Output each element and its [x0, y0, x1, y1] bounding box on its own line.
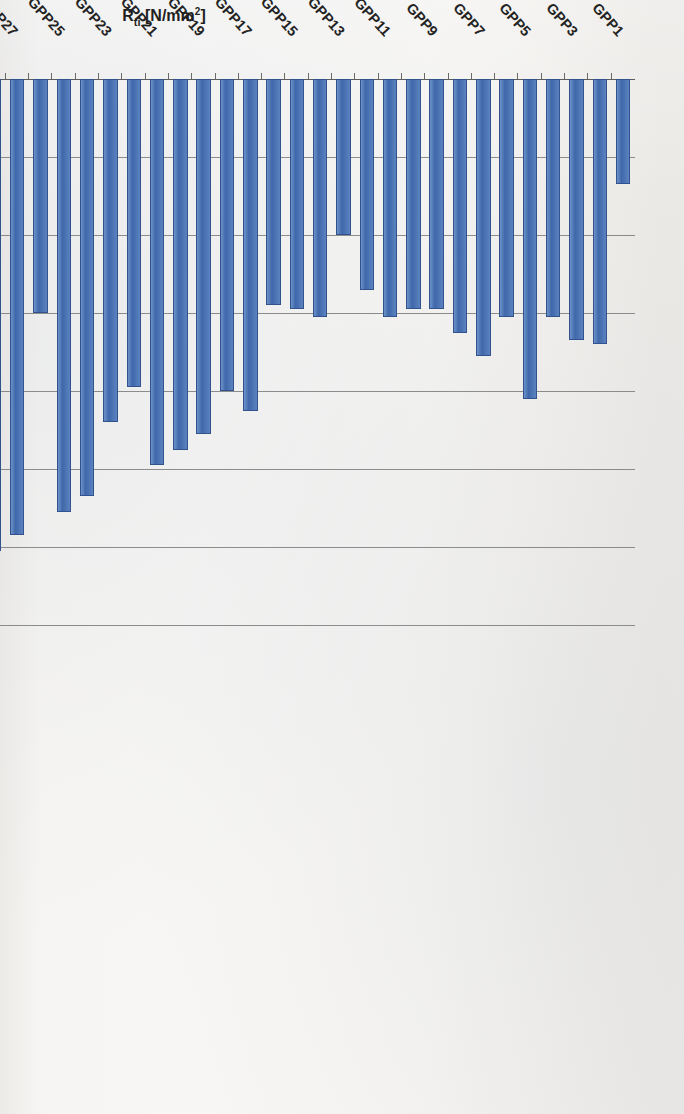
value-axis-title-unit: [N/mm	[141, 7, 195, 24]
category-tick-label: GPP5	[496, 0, 534, 39]
category-tick	[75, 73, 76, 79]
category-tick	[308, 73, 309, 79]
category-tick	[145, 73, 146, 79]
category-tick	[331, 73, 332, 79]
category-tick	[611, 73, 612, 79]
category-tick	[121, 73, 122, 79]
category-tick	[238, 73, 239, 79]
bar	[80, 79, 94, 496]
bar	[336, 79, 350, 235]
bar	[453, 79, 467, 333]
category-tick-label: GPP7	[450, 0, 488, 39]
bar	[430, 79, 444, 309]
category-tick	[168, 73, 169, 79]
bar	[33, 79, 47, 313]
category-tick	[471, 73, 472, 79]
category-tick	[378, 73, 379, 79]
category-tick-label: GPP23	[71, 0, 114, 39]
rotated-figure-wrapper: 01234567 GPP1GPP3GPP5GPP7GPP9GPP11GPP13G…	[0, 0, 684, 1114]
bar	[383, 79, 397, 317]
category-tick	[215, 73, 216, 79]
bar	[569, 79, 583, 340]
category-tick-label: GPP25	[25, 0, 68, 39]
category-tick-label: GPP15	[258, 0, 301, 39]
bar	[196, 79, 210, 434]
value-axis-title-close: ]	[200, 7, 205, 24]
category-tick	[98, 73, 99, 79]
bar	[243, 79, 257, 411]
category-tick	[587, 73, 588, 79]
bar	[266, 79, 280, 305]
bar	[313, 79, 327, 317]
bar	[127, 79, 141, 387]
category-tick	[191, 73, 192, 79]
bar	[150, 79, 164, 465]
category-tick	[5, 73, 6, 79]
category-tick-label: GPP27	[0, 0, 21, 39]
bar	[523, 79, 537, 399]
bar	[57, 79, 71, 512]
category-tick	[517, 73, 518, 79]
bar	[220, 79, 234, 391]
category-tick	[261, 73, 262, 79]
category-tick	[448, 73, 449, 79]
category-tick-label: GPP3	[543, 0, 581, 39]
category-tick-label: GPP17	[211, 0, 254, 39]
category-tick	[51, 73, 52, 79]
bar	[290, 79, 304, 309]
category-tick-label: GPP11	[352, 0, 395, 39]
bar	[360, 79, 374, 290]
category-tick	[401, 73, 402, 79]
category-tick	[28, 73, 29, 79]
bar-chart-figure: 01234567 GPP1GPP3GPP5GPP7GPP9GPP11GPP13G…	[0, 0, 684, 1114]
bar	[103, 79, 117, 422]
bar	[476, 79, 490, 356]
bar	[173, 79, 187, 450]
value-axis-title-text: R	[122, 7, 134, 24]
bar	[406, 79, 420, 309]
category-tick-label: GPP1	[590, 0, 628, 39]
category-tick-label: GPP9	[403, 0, 441, 39]
bar	[616, 79, 630, 184]
category-tick	[354, 73, 355, 79]
category-tick	[424, 73, 425, 79]
value-axis-title: Rti [N/mm2]	[122, 6, 205, 28]
bar	[593, 79, 607, 344]
category-tick	[564, 73, 565, 79]
bar	[0, 79, 1, 551]
bar	[499, 79, 513, 317]
category-tick-label: GPP13	[305, 0, 348, 39]
bar	[10, 79, 24, 535]
category-tick	[284, 73, 285, 79]
category-tick	[494, 73, 495, 79]
bar	[546, 79, 560, 317]
category-tick	[541, 73, 542, 79]
